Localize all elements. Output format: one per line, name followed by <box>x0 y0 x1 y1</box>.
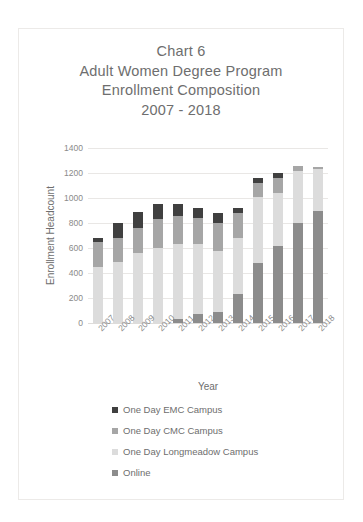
bar-segment <box>173 204 183 215</box>
bar-segment <box>313 211 323 324</box>
bar-series-group <box>88 148 328 323</box>
bar-slot[interactable] <box>288 148 308 323</box>
y-axis-tick-label: 1400 <box>64 143 83 153</box>
bar-slot[interactable] <box>148 148 168 323</box>
bar-segment <box>173 244 183 319</box>
bar-slot[interactable] <box>308 148 328 323</box>
legend-swatch-icon <box>112 449 118 455</box>
stacked-bar[interactable] <box>193 208 203 323</box>
bar-segment <box>93 267 103 323</box>
y-axis-tick-label: 800 <box>69 218 83 228</box>
legend-item[interactable]: One Day EMC Campus <box>112 399 332 420</box>
stacked-bar[interactable] <box>253 178 263 323</box>
y-axis-tick-label: 1000 <box>64 193 83 203</box>
bar-segment <box>313 167 323 170</box>
bar-segment <box>113 262 123 323</box>
legend-item[interactable]: Online <box>112 462 332 483</box>
bar-segment <box>273 193 283 246</box>
stacked-bar[interactable] <box>213 213 223 323</box>
bar-segment <box>213 251 223 312</box>
bar-slot[interactable] <box>108 148 128 323</box>
bar-segment <box>93 242 103 267</box>
stacked-bar[interactable] <box>93 238 103 323</box>
bar-segment <box>253 197 263 263</box>
stacked-bar[interactable] <box>153 204 163 323</box>
bar-slot[interactable] <box>188 148 208 323</box>
bar-slot[interactable] <box>168 148 188 323</box>
bar-slot[interactable] <box>268 148 288 323</box>
y-axis-tick-label: 600 <box>69 243 83 253</box>
y-axis-tick-label: 200 <box>69 293 83 303</box>
bar-segment <box>133 212 143 228</box>
legend-item-label: Online <box>123 467 150 478</box>
bar-segment <box>193 218 203 244</box>
legend-item[interactable]: One Day CMC Campus <box>112 420 332 441</box>
bar-segment <box>133 228 143 253</box>
legend-swatch-icon <box>112 470 118 476</box>
bar-segment <box>93 238 103 242</box>
bar-slot[interactable] <box>88 148 108 323</box>
bar-segment <box>273 246 283 324</box>
bar-segment <box>213 223 223 251</box>
bar-segment <box>313 169 323 210</box>
y-axis-tick-label: 0 <box>78 318 83 328</box>
legend-item-label: One Day Longmeadow Campus <box>123 446 258 457</box>
bar-segment <box>273 173 283 178</box>
chart-legend: One Day EMC CampusOne Day CMC CampusOne … <box>112 399 332 483</box>
legend-item-label: One Day EMC Campus <box>123 404 222 415</box>
bar-segment <box>233 238 243 294</box>
plot-area: 1400120010008006004002000 20072008200920… <box>88 148 328 323</box>
bar-segment <box>293 171 303 224</box>
bar-segment <box>193 244 203 314</box>
bar-segment <box>253 263 263 323</box>
document-page: Chart 6 Adult Women Degree Program Enrol… <box>18 28 344 500</box>
x-axis-title: Year <box>88 381 328 392</box>
bar-segment <box>173 216 183 245</box>
legend-swatch-icon <box>112 407 118 413</box>
stacked-bar[interactable] <box>233 208 243 323</box>
bar-segment <box>293 223 303 323</box>
bar-slot[interactable] <box>228 148 248 323</box>
legend-item-label: One Day CMC Campus <box>123 425 223 436</box>
bar-segment <box>273 178 283 193</box>
bar-segment <box>113 238 123 262</box>
legend-swatch-icon <box>112 428 118 434</box>
stacked-bar[interactable] <box>173 204 183 323</box>
bar-segment <box>233 208 243 213</box>
bar-slot[interactable] <box>208 148 228 323</box>
y-axis-tick-label: 400 <box>69 268 83 278</box>
bar-segment <box>253 183 263 197</box>
bar-segment <box>153 204 163 219</box>
stacked-bar[interactable] <box>133 212 143 323</box>
bar-segment <box>193 208 203 218</box>
bar-segment <box>233 213 243 238</box>
stacked-bar[interactable] <box>293 166 303 324</box>
legend-item[interactable]: One Day Longmeadow Campus <box>112 441 332 462</box>
bar-segment <box>113 223 123 238</box>
bar-segment <box>293 166 303 171</box>
stacked-bar[interactable] <box>113 223 123 323</box>
bar-slot[interactable] <box>248 148 268 323</box>
y-axis-tick-label: 1200 <box>64 168 83 178</box>
stacked-bar[interactable] <box>313 167 323 323</box>
bar-segment <box>253 178 263 183</box>
bar-segment <box>133 253 143 323</box>
bar-segment <box>213 213 223 223</box>
bar-segment <box>153 248 163 323</box>
bar-segment <box>153 219 163 248</box>
chart-container: Chart 6 Adult Women Degree Program Enrol… <box>19 29 343 499</box>
stacked-bar[interactable] <box>273 173 283 323</box>
y-axis-title: Enrollment Headcount <box>45 148 59 323</box>
bar-slot[interactable] <box>128 148 148 323</box>
